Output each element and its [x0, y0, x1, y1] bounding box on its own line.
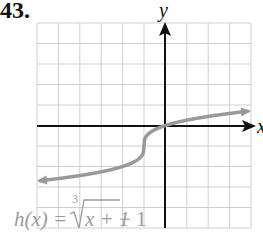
formula-tail: − 1 [119, 207, 147, 231]
formula-lhs: h(x) = [14, 207, 67, 231]
formula-root-index: 3 [72, 192, 78, 206]
svg-text:h(x) =: h(x) = [14, 207, 67, 231]
curve-left-arrow-icon [37, 175, 47, 184]
y-axis-label: y [157, 0, 168, 22]
curve-right-arrow-icon [241, 108, 251, 117]
x-axis-label: x [256, 115, 263, 137]
function-graph: x y h(x) = 3 x + 1 − 1 [0, 0, 263, 237]
